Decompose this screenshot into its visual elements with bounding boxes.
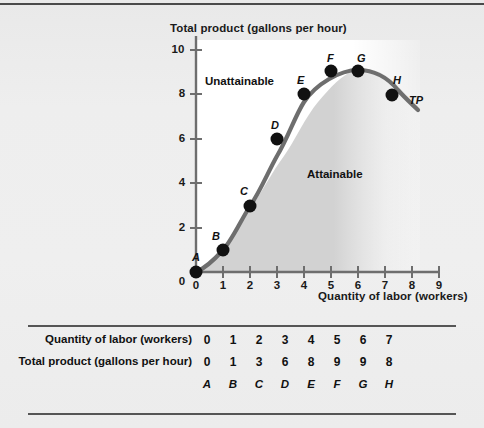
data-table: Quantity of labor (workers) 0 1 2 3 4 5 … [0, 320, 484, 428]
cell-point-1: B [220, 378, 246, 390]
point-label-a: A [192, 251, 200, 263]
cell-product-6: 9 [350, 355, 376, 369]
data-point-e [298, 88, 311, 101]
row-cells-quantity: 0 1 2 3 4 5 6 7 [194, 333, 402, 347]
cell-quantity-1: 1 [220, 333, 246, 347]
total-product-chart [0, 0, 484, 320]
cell-quantity-6: 6 [350, 333, 376, 347]
cell-point-2: C [246, 378, 272, 390]
y-tick-label-8: 8 [174, 87, 190, 99]
point-label-h: H [393, 74, 401, 86]
y-axis-title: Total product (gallons per hour) [170, 22, 347, 34]
data-point-b [217, 244, 230, 257]
x-tick-label-3: 3 [269, 279, 285, 291]
data-point-a [190, 266, 203, 279]
row-header-product: Total product (gallons per hour) [18, 355, 192, 367]
point-label-f: F [327, 52, 334, 64]
attainable-label: Attainable [307, 168, 363, 180]
figure-total-product: 10 8 6 4 2 0 0 1 2 3 4 5 6 7 8 9 Total p… [0, 0, 484, 428]
point-label-g: G [357, 52, 366, 64]
cell-quantity-5: 5 [324, 333, 350, 347]
cell-product-3: 6 [272, 355, 298, 369]
chart-plot-area: 10 8 6 4 2 0 0 1 2 3 4 5 6 7 8 9 Total p… [0, 0, 484, 320]
table-row: Total product (gallons per hour) 0 1 3 6… [0, 355, 484, 375]
cell-product-1: 1 [220, 355, 246, 369]
cell-product-5: 9 [324, 355, 350, 369]
data-point-g [352, 65, 365, 78]
x-tick-label-4: 4 [296, 279, 312, 291]
data-point-h [386, 89, 399, 102]
x-tick-label-1: 1 [215, 279, 231, 291]
table-row: A B C D E F G H [0, 378, 484, 398]
row-cells-product: 0 1 3 6 8 9 9 8 [194, 355, 402, 369]
cell-quantity-4: 4 [298, 333, 324, 347]
cell-point-3: D [272, 378, 298, 390]
point-label-d: D [271, 119, 279, 131]
cell-product-4: 8 [298, 355, 324, 369]
cell-quantity-2: 2 [246, 333, 272, 347]
curve-label-tp: TP [409, 94, 423, 106]
cell-point-7: H [376, 378, 402, 390]
cell-point-6: G [350, 378, 376, 390]
cell-quantity-3: 3 [272, 333, 298, 347]
cell-point-4: E [298, 378, 324, 390]
y-tick-label-2: 2 [174, 221, 190, 233]
y-tick-label-10: 10 [170, 43, 186, 55]
cell-quantity-0: 0 [194, 333, 220, 347]
point-label-b: B [212, 230, 220, 242]
x-axis-title: Quantity of labor (workers) [318, 290, 468, 302]
cell-point-0: A [194, 378, 220, 390]
unattainable-label: Unattainable [205, 75, 274, 87]
row-header-quantity: Quantity of labor (workers) [45, 333, 192, 345]
data-point-d [271, 133, 284, 146]
y-tick-label-4: 4 [174, 176, 190, 188]
y-tick-label-6: 6 [174, 132, 190, 144]
cell-product-0: 0 [194, 355, 220, 369]
row-cells-points: A B C D E F G H [194, 378, 402, 390]
table-bottom-rule [28, 413, 456, 415]
x-tick-label-2: 2 [242, 279, 258, 291]
cell-product-2: 3 [246, 355, 272, 369]
table-row: Quantity of labor (workers) 0 1 2 3 4 5 … [0, 333, 484, 353]
point-label-c: C [240, 185, 248, 197]
cell-product-7: 8 [376, 355, 402, 369]
point-label-e: E [297, 74, 304, 86]
data-point-c [244, 200, 257, 213]
cell-point-5: F [324, 378, 350, 390]
table-top-rule [28, 325, 456, 327]
cell-quantity-7: 7 [376, 333, 402, 347]
x-tick-label-0: 0 [188, 279, 204, 291]
data-point-f [325, 65, 338, 78]
